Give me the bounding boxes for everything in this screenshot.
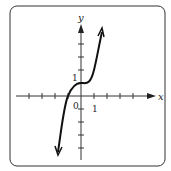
frame-border bbox=[10, 6, 165, 166]
origin-label: 0 bbox=[73, 101, 79, 111]
x-tick-one-label: 1 bbox=[92, 104, 98, 114]
x-axis-arrow-icon bbox=[147, 93, 156, 99]
graph: x y 0 1 1 bbox=[0, 0, 171, 171]
y-axis bbox=[78, 30, 84, 160]
y-axis-arrow-icon bbox=[78, 24, 84, 33]
x-axis-label: x bbox=[158, 91, 164, 102]
function-curve bbox=[58, 32, 102, 152]
y-axis-label: y bbox=[77, 12, 84, 23]
y-tick-one-label: 1 bbox=[72, 73, 78, 83]
x-axis bbox=[16, 93, 150, 99]
